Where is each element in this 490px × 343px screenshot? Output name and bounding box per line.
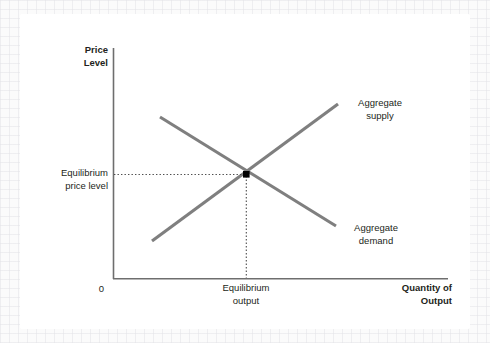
origin-label: 0 xyxy=(86,283,104,296)
equilibrium-price-level-label: Equilibrium price level xyxy=(18,167,108,192)
y-axis-title: Price Level xyxy=(48,44,108,69)
aggregate-supply-demand-figure: Price Level Equilibrium price level 0 Eq… xyxy=(0,0,490,343)
aggregate-supply-label: Aggregate supply xyxy=(344,97,416,122)
aggregate-demand-label: Aggregate demand xyxy=(340,222,412,247)
equilibrium-point-marker xyxy=(243,171,250,178)
x-axis-title: Quantity of Output xyxy=(368,282,452,307)
equilibrium-output-label: Equilibrium output xyxy=(196,282,296,307)
